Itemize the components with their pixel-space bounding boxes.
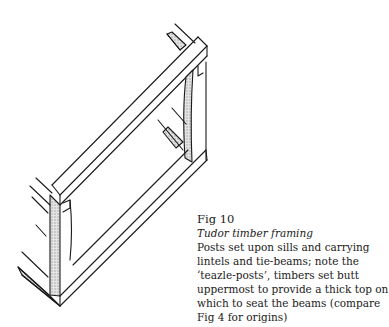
figure-caption: Fig 10 Tudor timber framing Posts set up…: [197, 212, 389, 324]
figure-title: Tudor timber framing: [197, 226, 389, 240]
right-teazle-post: [184, 62, 206, 162]
figure-description: Posts set upon sills and carrying lintel…: [197, 240, 389, 324]
figure-number: Fig 10: [197, 212, 389, 226]
left-teazle-post: [50, 195, 72, 296]
